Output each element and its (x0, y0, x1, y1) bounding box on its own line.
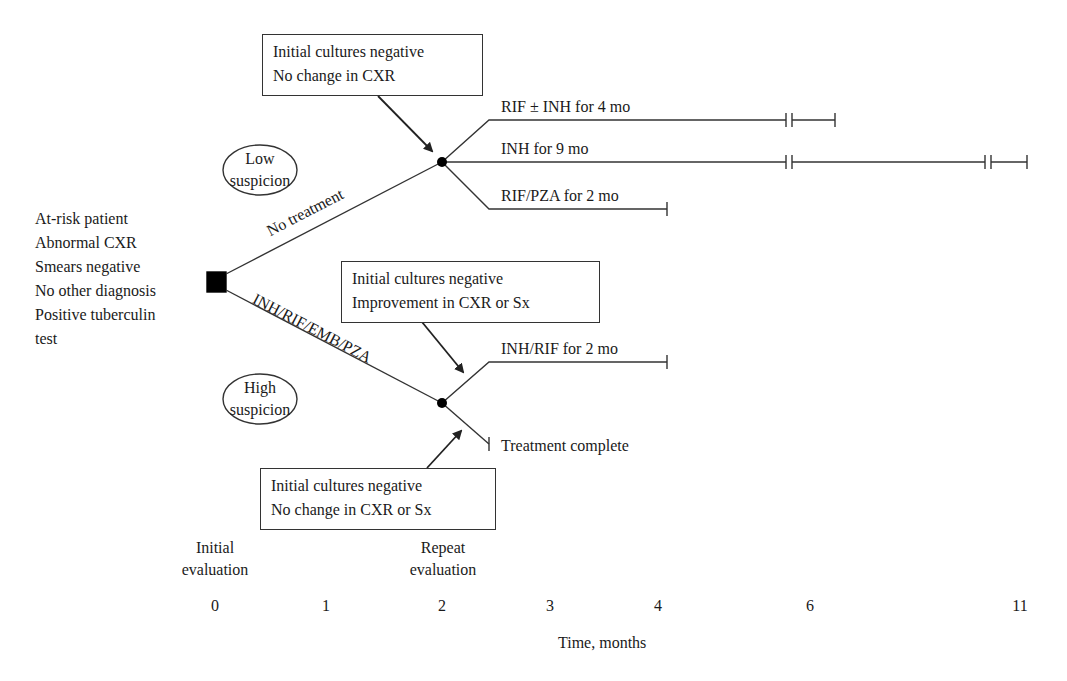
tick-4: 4 (648, 594, 668, 618)
box-line: No change in CXR or Sx (271, 498, 495, 522)
low-suspicion-line2: suspicion (223, 170, 297, 192)
regimen-rif-inh-4mo: RIF ± INH for 4 mo (501, 95, 630, 119)
regimen-inh-9mo: INH for 9 mo (501, 137, 589, 161)
tick-6: 6 (800, 594, 820, 618)
tick-0: 0 (205, 594, 225, 618)
box-line: Initial cultures negative (273, 40, 482, 64)
chance-node-upper (437, 157, 447, 167)
initial-evaluation-label: Initial evaluation (170, 537, 260, 581)
eval-line: Initial (170, 537, 260, 559)
eval-line: evaluation (170, 559, 260, 581)
high-suspicion-line2: suspicion (223, 399, 297, 421)
treatment-complete-label: Treatment complete (501, 434, 629, 458)
eval-line: evaluation (398, 559, 488, 581)
x-axis-label: Time, months (558, 631, 646, 655)
high-suspicion-line1: High (223, 377, 297, 399)
criterion: test (35, 327, 156, 351)
box-line: Initial cultures negative (352, 267, 599, 291)
criterion: Abnormal CXR (35, 231, 156, 255)
box-line: No change in CXR (273, 64, 482, 88)
criterion: Positive tuberculin (35, 303, 156, 327)
low-suspicion-label: Low suspicion (223, 148, 297, 192)
box-cultures-negative-no-change-sx: Initial cultures negative No change in C… (260, 468, 496, 530)
decision-node-square (207, 272, 226, 292)
eval-line: Repeat (398, 537, 488, 559)
tick-3: 3 (540, 594, 560, 618)
patient-criteria: At-risk patient Abnormal CXR Smears nega… (35, 207, 156, 351)
box-cultures-negative-improvement: Initial cultures negative Improvement in… (341, 261, 600, 323)
chance-node-lower (437, 398, 447, 408)
tick-2: 2 (432, 594, 452, 618)
regimen-inh-rif-2mo: INH/RIF for 2 mo (501, 337, 618, 361)
regimen-rif-pza-2mo: RIF/PZA for 2 mo (501, 184, 619, 208)
repeat-evaluation-label: Repeat evaluation (398, 537, 488, 581)
tick-11: 11 (1008, 594, 1032, 618)
tick-1: 1 (316, 594, 336, 618)
box-line: Initial cultures negative (271, 474, 495, 498)
box-line: Improvement in CXR or Sx (352, 291, 599, 315)
box-cultures-negative-no-change: Initial cultures negative No change in C… (262, 34, 483, 96)
high-suspicion-label: High suspicion (223, 377, 297, 421)
criterion: No other diagnosis (35, 279, 156, 303)
criterion: Smears negative (35, 255, 156, 279)
criterion: At-risk patient (35, 207, 156, 231)
low-suspicion-line1: Low (223, 148, 297, 170)
